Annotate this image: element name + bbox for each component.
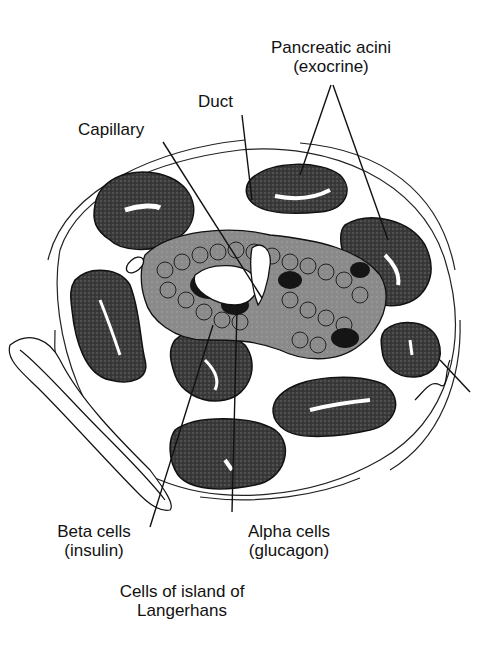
label-line: Langerhans: [96, 601, 268, 620]
label-beta-cells: Beta cells (insulin): [38, 522, 150, 560]
label-pancreatic-acini: Pancreatic acini (exocrine): [236, 38, 426, 76]
label-line: (insulin): [38, 541, 150, 560]
acinus: [246, 164, 347, 213]
label-capillary: Capillary: [78, 120, 144, 139]
label-line: Alpha cells: [234, 522, 344, 541]
label-line: Beta cells: [38, 522, 150, 541]
acinus: [71, 270, 146, 381]
leader-acini-left: [300, 85, 331, 175]
label-line: (glucagon): [234, 541, 344, 560]
label-line: Cells of island of: [96, 582, 268, 601]
label-line: (exocrine): [236, 57, 426, 76]
acinus: [170, 419, 285, 489]
label-line: Pancreatic acini: [236, 38, 426, 57]
label-duct: Duct: [198, 92, 233, 111]
label-alpha-cells: Alpha cells (glucagon): [234, 522, 344, 560]
label-islet-of-langerhans: Cells of island of Langerhans: [96, 582, 268, 620]
leader-acini-right: [333, 85, 388, 240]
